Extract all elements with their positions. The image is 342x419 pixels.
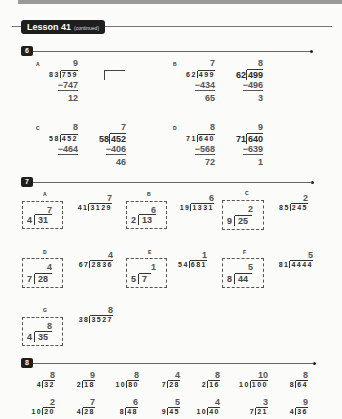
quotient: 9 bbox=[258, 122, 263, 132]
quotient: 3 bbox=[263, 397, 268, 407]
quotient: 8 bbox=[303, 370, 308, 380]
section-8-dot bbox=[313, 362, 316, 365]
dividend: 36 bbox=[296, 407, 308, 415]
dividend: 3129 bbox=[89, 203, 112, 211]
long-division-6c-answer: 7 58452 −406 46 bbox=[86, 122, 126, 172]
divisor: 2 bbox=[131, 215, 139, 225]
long-division-6c-work: 8 58452 −464 bbox=[38, 122, 78, 162]
remainder: 72 bbox=[205, 157, 215, 167]
dividend: 640 bbox=[247, 133, 263, 144]
dividend: 452 bbox=[61, 134, 78, 142]
dividend: 16 bbox=[208, 380, 220, 388]
dividend: 4444 bbox=[290, 260, 313, 268]
long-division-6d-answer: 9 71640 −639 1 bbox=[225, 122, 263, 172]
division-8-13: 3721 bbox=[238, 397, 268, 419]
section-8-rule bbox=[33, 363, 313, 364]
problem-label: F bbox=[243, 249, 246, 255]
dividend: 31 bbox=[35, 214, 52, 225]
quotient: 5 bbox=[248, 262, 253, 272]
dividend: 640 bbox=[198, 134, 215, 142]
dividend: 44 bbox=[235, 273, 252, 284]
section-6-dot bbox=[310, 50, 313, 53]
divisor: 10 bbox=[31, 408, 43, 415]
quotient: 2 bbox=[303, 193, 308, 203]
division-8-5: 8216 bbox=[190, 370, 220, 392]
dividend: 499 bbox=[198, 70, 215, 78]
estimate-box-7c: 2 925 bbox=[222, 200, 264, 230]
quotient: 8 bbox=[258, 58, 263, 68]
quotient: 8 bbox=[73, 122, 78, 132]
quotient: 9 bbox=[303, 397, 308, 407]
section-6-rule bbox=[33, 51, 310, 52]
divisor: 8 bbox=[227, 274, 235, 284]
subtraction: −568 bbox=[195, 144, 215, 155]
quotient: 5 bbox=[175, 397, 180, 407]
quotient: 6 bbox=[133, 397, 138, 407]
estimate-box-7e: 1 57 bbox=[126, 258, 167, 288]
top-border bbox=[18, 0, 342, 4]
divisor: 4 bbox=[27, 332, 35, 342]
quotient: 8 bbox=[134, 370, 139, 380]
dividend: 48 bbox=[126, 407, 138, 415]
problem-label: C bbox=[245, 190, 249, 196]
section-7-rule bbox=[33, 182, 311, 183]
quotient: 7 bbox=[210, 58, 215, 68]
remainder: 1 bbox=[258, 157, 263, 167]
dividend: 245 bbox=[291, 203, 308, 211]
quotient: 8 bbox=[108, 305, 113, 315]
long-division-7d: 4 672836 bbox=[68, 250, 113, 272]
divisor: 10 bbox=[196, 408, 208, 415]
estimate-box-7d: 4 728 bbox=[22, 258, 63, 288]
dividend: 1331 bbox=[191, 203, 214, 211]
dividend: 452 bbox=[110, 133, 126, 144]
quotient: 6 bbox=[209, 193, 214, 203]
estimate-box-7b: 6 213 bbox=[126, 201, 167, 229]
dividend: 20 bbox=[43, 407, 55, 415]
division-8-11: 5945 bbox=[150, 397, 180, 419]
quotient: 7 bbox=[107, 193, 112, 203]
quotient: 9 bbox=[73, 58, 78, 68]
dividend: 28 bbox=[168, 380, 180, 388]
long-division-6b-work: 7 62499 −434 65 bbox=[175, 58, 215, 108]
subtraction: −639 bbox=[243, 144, 263, 155]
dividend: 28 bbox=[83, 407, 95, 415]
quotient: 2 bbox=[50, 397, 55, 407]
problem-label: B bbox=[147, 191, 151, 197]
quotient: 8 bbox=[210, 122, 215, 132]
long-division-6d-work: 8 71640 −568 72 bbox=[175, 122, 215, 172]
problem-label: E bbox=[148, 249, 151, 255]
division-8-2: 9218 bbox=[65, 370, 95, 392]
answer-space bbox=[104, 70, 125, 80]
long-division-6a-work: 9 83759 −747 12 bbox=[38, 58, 78, 108]
divisor: 7 bbox=[27, 274, 35, 284]
subtraction: −464 bbox=[58, 144, 78, 155]
remainder: 65 bbox=[205, 93, 215, 103]
divisor: 9 bbox=[227, 216, 235, 226]
dividend: 21 bbox=[256, 407, 268, 415]
estimate-box-7a: 7 431 bbox=[22, 201, 63, 229]
estimate-box-7g: 8 435 bbox=[22, 317, 63, 346]
dividend: 499 bbox=[247, 69, 263, 80]
divisor: 62 bbox=[236, 70, 247, 80]
divisor: 19 bbox=[180, 204, 192, 211]
remainder: 3 bbox=[258, 93, 263, 103]
problem-label: A bbox=[43, 191, 47, 197]
dividend: 32 bbox=[43, 380, 55, 388]
section-6-badge: 6 bbox=[21, 46, 33, 56]
lesson-title-text: Lesson 41 bbox=[27, 22, 71, 32]
division-8-8: 21020 bbox=[20, 397, 55, 419]
subtraction: −434 bbox=[195, 80, 215, 91]
divisor: 10 bbox=[115, 381, 127, 388]
dividend: 64 bbox=[296, 380, 308, 388]
dividend: 45 bbox=[168, 407, 180, 415]
remainder: 12 bbox=[68, 93, 78, 103]
dividend: 681 bbox=[190, 260, 207, 268]
divisor: 58 bbox=[49, 135, 61, 142]
long-division-7g: 8 383527 bbox=[68, 305, 113, 327]
quotient: 8 bbox=[215, 370, 220, 380]
quotient: 4 bbox=[47, 262, 52, 272]
long-division-7c: 2 85245 bbox=[268, 193, 308, 215]
divisor: 58 bbox=[99, 134, 110, 144]
problem-label: G bbox=[43, 307, 47, 313]
divisor: 85 bbox=[279, 204, 291, 211]
